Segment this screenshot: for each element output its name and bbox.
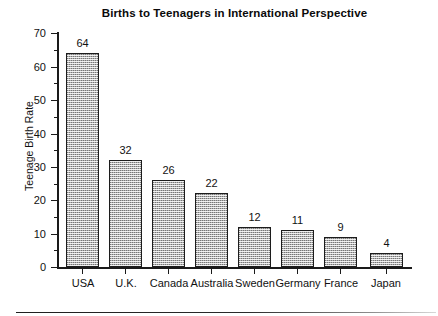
y-tick-0 xyxy=(51,267,58,268)
bar-germany xyxy=(281,230,314,267)
bar-value-uk: 32 xyxy=(101,145,150,156)
x-tick-sweden xyxy=(254,268,255,274)
bar-value-usa: 64 xyxy=(58,38,107,49)
x-tick-uk xyxy=(125,268,126,274)
y-tick-label-70: 70 xyxy=(20,28,46,39)
bar-chart-figure: Births to Teenagers in International Per… xyxy=(0,0,438,316)
x-tick-germany xyxy=(297,268,298,274)
bar-value-germany: 11 xyxy=(273,215,322,226)
x-tick-australia xyxy=(211,268,212,274)
bottom-divider-rule xyxy=(16,312,436,313)
bar-value-sweden: 12 xyxy=(230,212,279,223)
chart-title: Births to Teenagers in International Per… xyxy=(57,7,412,19)
bar-usa xyxy=(66,53,99,267)
bar-value-japan: 4 xyxy=(362,238,411,249)
bar-japan xyxy=(370,253,403,267)
x-tick-usa xyxy=(82,268,83,274)
y-axis-title: Teenage Birth Rate xyxy=(23,71,35,221)
bar-value-france: 9 xyxy=(316,222,365,233)
bar-canada xyxy=(152,180,185,267)
x-axis-line xyxy=(57,267,412,269)
plot-area: 64 32 26 22 12 11 9 4 xyxy=(57,33,412,267)
x-tick-canada xyxy=(168,268,169,274)
x-tick-japan xyxy=(386,268,387,274)
bar-value-australia: 22 xyxy=(187,178,236,189)
bar-uk xyxy=(109,160,142,267)
x-label-japan: Japan xyxy=(358,277,414,289)
y-tick-label-0: 0 xyxy=(20,262,46,273)
bar-value-canada: 26 xyxy=(144,165,193,176)
bar-australia xyxy=(195,193,228,267)
y-tick-label-10: 10 xyxy=(20,229,46,240)
x-tick-france xyxy=(340,268,341,274)
bar-sweden xyxy=(238,227,271,267)
bar-france xyxy=(324,237,357,267)
